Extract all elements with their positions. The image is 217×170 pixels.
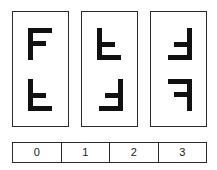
panel-1-glyph-top	[87, 21, 133, 67]
f-glyph-upright	[28, 28, 54, 60]
f-arm-middle	[105, 93, 123, 98]
panel-2[interactable]	[150, 11, 207, 127]
f-glyph-flipped-horizontal	[166, 79, 192, 111]
f-glyph-rotated-180	[97, 79, 123, 111]
f-arm-top	[28, 28, 52, 33]
f-arm-middle	[174, 92, 192, 97]
strip-cell-3[interactable]: 3	[159, 143, 207, 162]
f-glyph-flipped-vertical	[28, 79, 54, 111]
f-arm-top	[28, 106, 52, 111]
panel-1-glyph-bottom	[87, 72, 133, 118]
f-arm-top	[168, 55, 192, 60]
panel-0[interactable]	[12, 11, 69, 127]
figure-canvas: 0 1 2 3	[0, 0, 217, 170]
number-strip: 0 1 2 3	[12, 142, 207, 163]
panel-2-glyph-bottom	[156, 72, 202, 118]
f-arm-middle	[28, 93, 46, 98]
f-glyph-flipped-vertical	[97, 28, 123, 60]
f-arm-top	[97, 55, 121, 60]
panel-2-glyph-top	[156, 21, 202, 67]
f-arm-middle	[28, 41, 46, 46]
panel-row	[12, 11, 207, 127]
f-arm-middle	[97, 42, 115, 47]
strip-cell-0[interactable]: 0	[13, 143, 62, 162]
strip-cell-1[interactable]: 1	[62, 143, 111, 162]
panel-0-glyph-bottom	[18, 72, 64, 118]
panel-0-glyph-top	[18, 21, 64, 67]
f-arm-top	[99, 106, 123, 111]
f-arm-top	[168, 79, 192, 84]
panel-1[interactable]	[81, 11, 138, 127]
f-arm-middle	[174, 42, 192, 47]
strip-cell-2[interactable]: 2	[110, 143, 159, 162]
f-glyph-rotated-180	[166, 28, 192, 60]
